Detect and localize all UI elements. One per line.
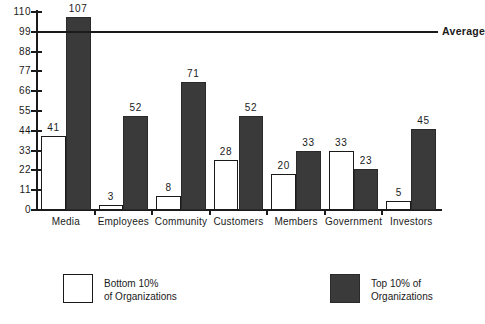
legend-swatch-bottom-icon <box>63 274 93 303</box>
average-label: Average <box>442 26 485 37</box>
y-tick <box>31 110 42 112</box>
bar-government-top <box>354 169 379 210</box>
bar-value-label: 71 <box>175 69 212 79</box>
bar-customers-bottom <box>214 160 239 210</box>
y-tick-label: 66 <box>1 86 31 96</box>
y-tick-label: 22 <box>1 165 31 175</box>
legend-label-bottom-line2: of Organizations <box>104 290 177 303</box>
bar-members-top <box>296 151 321 210</box>
bar-employees-top <box>123 116 148 210</box>
x-tick <box>94 209 96 215</box>
bar-investors-top <box>411 129 436 210</box>
bar-employees-bottom <box>99 205 124 210</box>
legend-label-bottom: Bottom 10% of Organizations <box>104 274 177 303</box>
bar-value-label: 52 <box>117 103 154 113</box>
y-tick <box>31 11 42 13</box>
legend: Bottom 10% of Organizations Top 10% of O… <box>0 262 452 324</box>
y-tick-label: 0 <box>1 205 31 215</box>
bar-value-label: 33 <box>323 138 360 148</box>
bar-media-bottom <box>41 136 66 210</box>
legend-swatch-top-icon <box>330 274 360 303</box>
bar-customers-top <box>239 116 264 210</box>
legend-label-top-line2: Organizations <box>371 290 433 303</box>
bar-value-label: 45 <box>405 116 442 126</box>
x-tick <box>266 209 268 215</box>
legend-label-top: Top 10% of Organizations <box>371 274 433 303</box>
y-tick <box>31 90 42 92</box>
y-tick-label: 77 <box>1 66 31 76</box>
category-label-investors: Investors <box>376 216 446 227</box>
bar-media-top <box>66 17 91 210</box>
bar-value-label: 33 <box>290 138 327 148</box>
y-tick-label: 11 <box>1 185 31 195</box>
x-tick <box>324 209 326 215</box>
legend-label-top-line1: Top 10% of <box>371 277 433 290</box>
bar-community-bottom <box>156 196 181 210</box>
bar-value-label: 107 <box>60 4 97 14</box>
y-tick-label: 55 <box>1 106 31 116</box>
y-tick-label: 88 <box>1 47 31 57</box>
x-tick <box>209 209 211 215</box>
y-tick-label: 110 <box>1 7 31 17</box>
y-axis-labels: 0112233445566778899110 <box>0 0 31 220</box>
bar-members-bottom <box>271 174 296 210</box>
legend-item-bottom: Bottom 10% of Organizations <box>63 274 177 303</box>
legend-item-top: Top 10% of Organizations <box>330 274 433 303</box>
y-tick-label: 99 <box>1 27 31 37</box>
bar-value-label: 52 <box>233 103 270 113</box>
legend-label-bottom-line1: Bottom 10% <box>104 277 177 290</box>
y-tick-label: 44 <box>1 126 31 136</box>
x-tick <box>381 209 383 215</box>
bar-community-top <box>181 82 206 210</box>
bar-value-label: 23 <box>348 156 385 166</box>
y-tick <box>31 51 42 53</box>
average-line <box>37 31 438 33</box>
y-tick-label: 33 <box>1 146 31 156</box>
y-tick <box>31 70 42 72</box>
bar-investors-bottom <box>386 201 411 210</box>
x-tick <box>151 209 153 215</box>
